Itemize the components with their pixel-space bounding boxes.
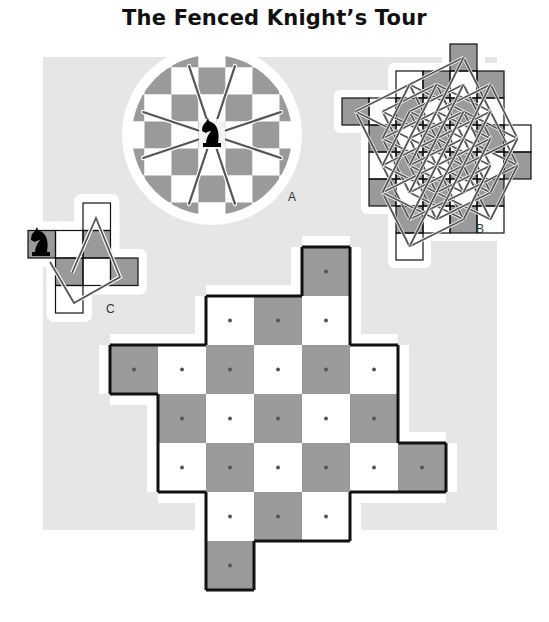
- puzzle-canvas: [0, 0, 549, 622]
- figure-b-label: B: [476, 222, 484, 236]
- figure-c-label: C: [106, 302, 115, 316]
- figure-a-circular-board: [91, 14, 307, 230]
- figure-c-small-board: [19, 194, 147, 322]
- main-fenced-board: [110, 247, 446, 590]
- figure-b-tour-board: [331, 33, 539, 268]
- knight-icon: [199, 118, 225, 149]
- figure-a-label: A: [288, 190, 296, 204]
